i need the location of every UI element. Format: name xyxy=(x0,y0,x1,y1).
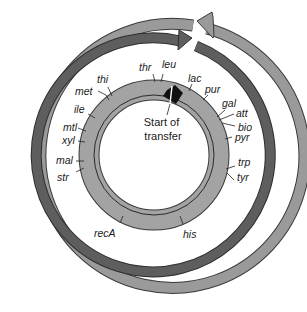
gene-label-his: his xyxy=(183,228,197,240)
gene-label-lac: lac xyxy=(188,72,202,84)
chromosome-ring xyxy=(89,90,219,220)
gene-label-ile: ile xyxy=(74,103,85,115)
start-of-transfer-label: Start of transfer xyxy=(144,116,183,142)
gene-label-met: met xyxy=(75,85,94,97)
gene-label-thr: thr xyxy=(139,61,152,73)
middle-arrowhead-icon xyxy=(178,30,192,50)
gene-label-mal: mal xyxy=(56,154,74,166)
gene-label-tyr: tyr xyxy=(237,171,249,183)
gene-label-pur: pur xyxy=(204,83,221,95)
gene-label-pyr: pyr xyxy=(234,131,250,143)
gene-label-leu: leu xyxy=(162,58,176,70)
hfr-conjugation-diagram: Start of transfer xyxy=(0,0,307,312)
gene-label-xyl: xyl xyxy=(61,134,76,146)
gene-label-mtl: mtl xyxy=(63,121,78,133)
gene-label-trp: trp xyxy=(238,156,250,168)
middle-replication-ring xyxy=(36,30,270,272)
gene-label-thi: thi xyxy=(97,73,109,85)
gene-label-gal: gal xyxy=(222,97,237,109)
gene-label-recA: recA xyxy=(94,227,116,239)
gene-label-att: att xyxy=(236,107,249,119)
gene-label-str: str xyxy=(57,171,69,183)
